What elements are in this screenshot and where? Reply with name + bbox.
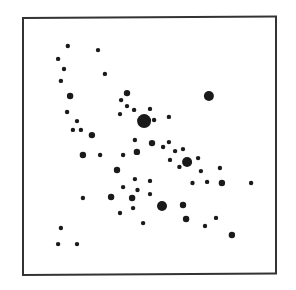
data-point [81, 196, 85, 200]
data-point [181, 147, 185, 151]
data-point [203, 224, 207, 228]
data-point [229, 232, 235, 238]
data-point [180, 202, 186, 208]
data-point [135, 188, 139, 192]
data-point [152, 118, 156, 122]
data-point [96, 48, 100, 52]
data-point [249, 181, 253, 185]
data-point [114, 167, 120, 173]
data-point [183, 216, 189, 222]
data-point [157, 201, 167, 211]
data-point [118, 211, 122, 215]
data-point [121, 185, 125, 189]
data-point [218, 166, 222, 170]
data-point [149, 140, 155, 146]
data-point [148, 179, 152, 183]
data-point [124, 90, 130, 96]
data-point [214, 216, 218, 220]
data-point [119, 98, 123, 102]
data-point [205, 180, 209, 184]
data-point [131, 206, 135, 210]
data-point [199, 169, 203, 173]
data-point [148, 192, 152, 196]
data-point [137, 114, 151, 128]
data-point [89, 132, 95, 138]
data-point [56, 242, 60, 246]
data-point [148, 107, 152, 111]
data-point [75, 242, 79, 246]
data-point [66, 44, 70, 48]
data-point [108, 194, 114, 200]
data-point [167, 140, 171, 144]
data-point [219, 180, 225, 186]
data-point [134, 149, 140, 155]
data-point [173, 149, 177, 153]
data-point [196, 156, 200, 160]
data-point [80, 152, 86, 158]
data-point [67, 93, 73, 99]
data-point [177, 165, 181, 169]
data-point [161, 145, 165, 149]
data-point [62, 67, 66, 71]
data-point [118, 112, 122, 116]
data-point [56, 57, 60, 61]
data-point [141, 221, 145, 225]
data-point [182, 157, 192, 167]
data-point [132, 108, 136, 112]
data-point [98, 153, 102, 157]
data-point [125, 104, 129, 108]
data-points [56, 44, 253, 247]
data-point [75, 119, 79, 123]
data-point [167, 115, 171, 119]
data-point [190, 181, 194, 185]
data-point [65, 110, 69, 114]
data-point [71, 128, 75, 132]
data-point [129, 195, 135, 201]
data-point [79, 128, 83, 132]
data-point [168, 158, 172, 162]
data-point [121, 153, 125, 157]
data-point [133, 138, 137, 142]
data-point [204, 91, 214, 101]
data-point [133, 177, 137, 181]
data-point [59, 79, 63, 83]
data-point [103, 72, 107, 76]
scatter-plot [0, 0, 296, 290]
data-point [59, 226, 63, 230]
